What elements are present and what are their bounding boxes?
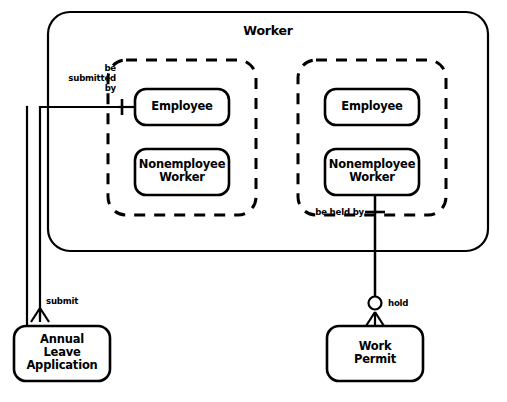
entity-label-work-permit: Work Permit (327, 340, 423, 366)
crow-foot-work-permit (366, 312, 384, 326)
crow-foot-annual-leave (31, 308, 49, 322)
relationship-label-be-held-by: be held by (300, 207, 364, 217)
relationship-label-be-submitted-by: be submitted by (52, 63, 116, 93)
entity-label-left-nonemployee: Nonemployee Worker (135, 158, 229, 184)
entity-label-annual-leave-application: Annual Leave Application (14, 333, 110, 372)
worker-supertype-box (48, 12, 488, 251)
diagram-canvas: Worker Employee Nonemployee Worker Emplo… (0, 0, 507, 402)
entity-label-right-employee: Employee (325, 100, 419, 113)
relationship-label-submit: submit (46, 296, 106, 306)
entity-label-right-nonemployee: Nonemployee Worker (325, 158, 419, 184)
worker-supertype-title: Worker (208, 24, 328, 38)
entity-label-left-employee: Employee (135, 100, 229, 113)
zero-circle-work-permit (369, 297, 382, 310)
relationship-label-hold: hold (388, 298, 428, 308)
